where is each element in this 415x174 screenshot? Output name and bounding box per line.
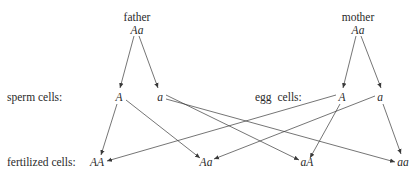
egg-A: A [338,92,345,104]
fertilized-cells-label: fertilized cells: [7,157,76,169]
egg-cells-label: egg cells: [255,92,302,104]
arrow-father-to-sperm-A [120,36,134,88]
arrow-egg-A-to-aA [310,104,340,158]
father-genotype: Aa [131,25,144,37]
mother-genotype: Aa [352,25,365,37]
arrow-sperm-A-to-AA [101,104,117,155]
offspring-AA: AA [90,157,104,169]
egg-a: a [377,92,383,104]
arrow-mother-to-egg-a [361,36,381,88]
father-label: father [124,12,151,24]
arrow-sperm-a-to-aa [166,99,395,162]
sperm-a: a [157,92,163,104]
arrow-egg-A-to-AA [107,95,336,161]
offspring-Aa: Aa [200,157,213,169]
sperm-A: A [115,92,122,104]
arrow-sperm-A-to-Aa [126,100,200,158]
arrow-egg-a-to-aa [383,104,401,154]
mother-label: mother [342,12,375,24]
offspring-aa: aa [397,157,409,169]
sperm-cells-label: sperm cells: [7,92,62,104]
arrow-father-to-sperm-a [139,36,158,88]
offspring-aA: aA [301,157,314,169]
punnett-cross-diagram: father Aa mother Aa sperm cells: A a egg… [0,0,415,174]
arrow-mother-to-egg-A [343,36,356,88]
